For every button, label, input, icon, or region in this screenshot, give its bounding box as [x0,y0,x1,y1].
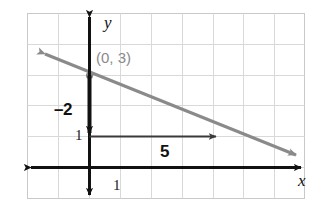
y-axis-label: y [104,14,112,31]
x-axis-label: x [298,172,306,189]
x-axis-tick-label: 1 [113,178,121,193]
y-axis-tick-label: 1 [75,128,83,143]
run-label: 5 [160,143,169,160]
coordinate-plane [0,0,320,221]
y-intercept-point-label: (0, 3) [96,50,131,65]
rise-label: –2 [54,101,72,118]
graph-figure: y x (0, 3) –2 5 1 1 [0,0,320,221]
